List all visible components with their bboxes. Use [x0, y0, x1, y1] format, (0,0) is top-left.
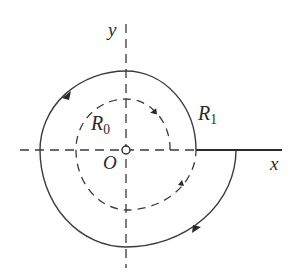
- y-axis-label: y: [108, 20, 116, 39]
- r0-base: R: [91, 112, 103, 134]
- r0-subscript: 0: [103, 122, 110, 137]
- spiral-diagram: y x O R0 R1: [0, 0, 299, 275]
- diagram-graphic: [0, 0, 299, 275]
- outer-arrow-lower-icon: [192, 225, 201, 233]
- r1-label: R1: [198, 103, 217, 127]
- origin-label: O: [103, 153, 117, 172]
- r1-subscript: 1: [210, 112, 217, 127]
- inner-arrow-lower-icon: [178, 180, 184, 186]
- x-axis-label: x: [270, 154, 278, 173]
- inner-arrow-upper-icon: [150, 108, 159, 117]
- origin-point: [122, 146, 130, 154]
- r0-label: R0: [91, 113, 110, 137]
- r1-base: R: [198, 102, 210, 124]
